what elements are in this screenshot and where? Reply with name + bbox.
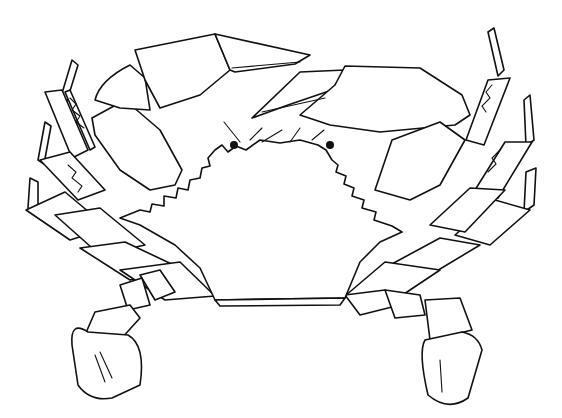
left-swimming-paddle <box>72 270 175 399</box>
right-swimming-paddle <box>345 290 482 404</box>
posterior-margin <box>215 298 345 306</box>
right-eye-icon <box>326 141 334 149</box>
antennae <box>224 122 324 142</box>
crab-illustration <box>0 0 562 418</box>
left-eye-icon <box>230 141 238 149</box>
